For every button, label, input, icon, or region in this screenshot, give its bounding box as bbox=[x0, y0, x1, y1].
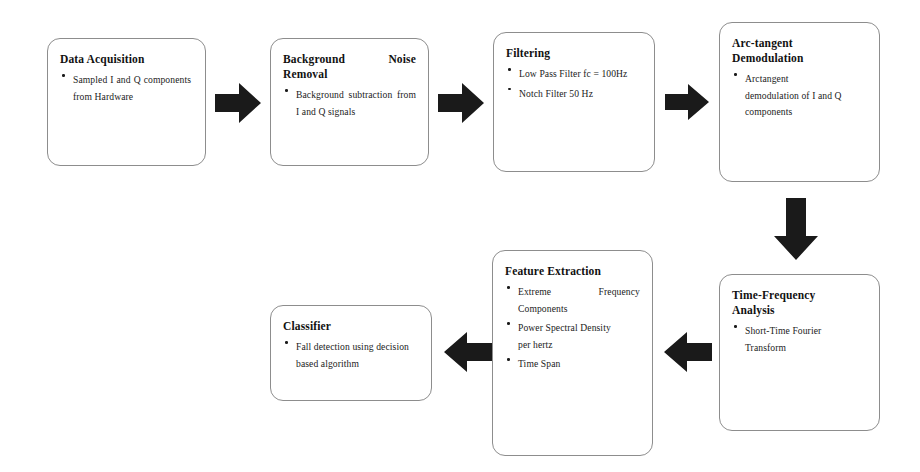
bullet-dot-icon bbox=[507, 358, 510, 361]
list-item: Extreme Frequency Components bbox=[505, 284, 640, 317]
node-bullet-list: Low Pass Filter fc = 100Hz Notch Filter … bbox=[506, 66, 642, 102]
node-title-line-2: Noise bbox=[388, 53, 416, 65]
bullet-dot-icon bbox=[734, 325, 737, 328]
list-item: Short-Time Fourier Transform bbox=[732, 323, 867, 356]
list-item: Arctangent demodulation of I and Q compo… bbox=[732, 71, 867, 121]
bullet-dot-icon bbox=[285, 341, 288, 344]
bullet-text: Sampled I and Q components from Hardware bbox=[73, 74, 191, 102]
list-item: Fall detection using decision based algo… bbox=[283, 339, 419, 372]
node-bullet-list: Extreme Frequency Components Power Spect… bbox=[505, 284, 640, 373]
node-title: Classifier bbox=[283, 319, 419, 334]
diagram-title: Fall detection signal processing pipelin… bbox=[0, 21, 1, 22]
bullet-text-line-1: Arctangent bbox=[745, 71, 867, 88]
node-bullet-list: Short-Time Fourier Transform bbox=[732, 323, 867, 356]
arrow-down-icon-demodulation-to-analysis bbox=[772, 198, 820, 260]
node-title-line-1: Background bbox=[283, 53, 345, 65]
list-item: Sampled I and Q components from Hardware bbox=[60, 72, 193, 105]
bullet-text-line-2: demodulation of I and Q bbox=[745, 88, 867, 105]
node-title-line-2: Demodulation bbox=[732, 51, 867, 66]
node-bullet-list: Arctangent demodulation of I and Q compo… bbox=[732, 71, 867, 121]
node-feature-extraction[interactable]: Feature Extraction Extreme Frequency Com… bbox=[492, 250, 653, 456]
bullet-dot-icon bbox=[285, 89, 288, 92]
arrow-right-icon-filtering-to-demodulation bbox=[665, 81, 709, 123]
node-title: Arc-tangent Demodulation bbox=[732, 36, 867, 66]
node-bullet-list: Background subtraction from I and Q sign… bbox=[283, 87, 416, 120]
bullet-text-line-1: Extreme Frequency bbox=[518, 284, 640, 301]
node-title-line-3: Removal bbox=[283, 67, 416, 82]
bullet-text: Notch Filter 50 Hz bbox=[519, 88, 593, 99]
node-title: Time-Frequency Analysis bbox=[732, 288, 867, 318]
node-title: Data Acquisition bbox=[60, 52, 193, 67]
node-bullet-list: Fall detection using decision based algo… bbox=[283, 339, 419, 372]
node-title: Background Noise Removal bbox=[283, 52, 416, 82]
bullet-text: Fall detection using decision based algo… bbox=[296, 341, 409, 369]
arrow-right-icon-acquisition-to-noise bbox=[215, 80, 261, 126]
node-filtering[interactable]: Filtering Low Pass Filter fc = 100Hz Not… bbox=[493, 32, 655, 172]
node-bullet-list: Sampled I and Q components from Hardware bbox=[60, 72, 193, 105]
list-item: Low Pass Filter fc = 100Hz bbox=[506, 66, 642, 83]
bullet-text-line-2: per hertz bbox=[518, 337, 640, 354]
node-classifier[interactable]: Classifier Fall detection using decision… bbox=[270, 305, 432, 401]
bullet-text: Time Span bbox=[518, 358, 560, 369]
node-background-noise-removal[interactable]: Background Noise Removal Background subt… bbox=[270, 38, 429, 166]
node-arc-tangent-demodulation[interactable]: Arc-tangent Demodulation Arctangent demo… bbox=[719, 22, 880, 182]
list-item: Time Span bbox=[505, 356, 640, 373]
node-title: Filtering bbox=[506, 46, 642, 61]
bullet-text: Short-Time Fourier Transform bbox=[745, 325, 821, 353]
bullet-dot-icon bbox=[508, 68, 511, 71]
arrow-right-icon-noise-to-filtering bbox=[438, 80, 484, 126]
arrow-left-icon-analysis-to-feature bbox=[664, 329, 712, 375]
list-item: Background subtraction from I and Q sign… bbox=[283, 87, 416, 120]
bullet-text: Low Pass Filter fc = 100Hz bbox=[519, 68, 627, 79]
bullet-dot-icon bbox=[507, 286, 510, 289]
node-data-acquisition[interactable]: Data Acquisition Sampled I and Q compone… bbox=[47, 38, 206, 166]
list-item: Power Spectral Density per hertz bbox=[505, 320, 640, 353]
bullet-text: Background subtraction from I and Q sign… bbox=[296, 89, 416, 117]
node-title: Feature Extraction bbox=[505, 264, 640, 279]
list-item: Notch Filter 50 Hz bbox=[506, 86, 642, 103]
bullet-text-line-2: Components bbox=[518, 301, 640, 318]
bullet-dot-icon bbox=[508, 88, 511, 91]
bullet-text-line-3: components bbox=[745, 104, 867, 121]
bullet-dot-icon bbox=[62, 74, 65, 77]
bullet-text-line-1: Power Spectral Density bbox=[518, 320, 640, 337]
node-time-frequency-analysis[interactable]: Time-Frequency Analysis Short-Time Fouri… bbox=[719, 274, 880, 431]
node-title-line-1: Arc-tangent bbox=[732, 36, 867, 51]
node-title-line-2: Analysis bbox=[732, 303, 867, 318]
bullet-dot-icon bbox=[507, 322, 510, 325]
bullet-dot-icon bbox=[734, 73, 737, 76]
node-title-line-1: Time-Frequency bbox=[732, 288, 867, 303]
arrow-left-icon-feature-to-classifier bbox=[444, 329, 492, 375]
bullet-word-1: Extreme bbox=[518, 286, 551, 297]
bullet-word-2: Frequency bbox=[599, 286, 640, 297]
flowchart-canvas: Fall detection signal processing pipelin… bbox=[0, 0, 920, 472]
